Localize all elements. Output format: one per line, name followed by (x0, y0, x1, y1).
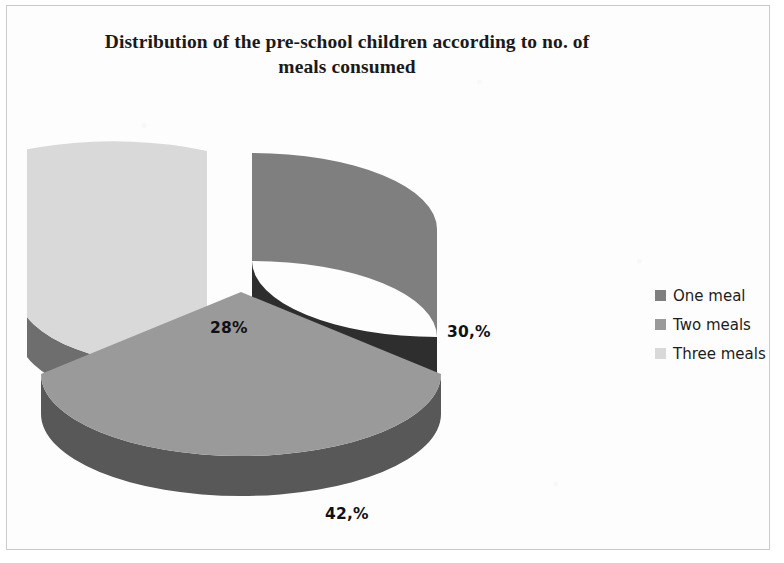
chart-title: Distribution of the pre-school children … (67, 29, 627, 79)
legend-swatch-icon-two-meals (655, 319, 666, 330)
legend-item-three-meals[interactable]: Three meals (655, 340, 775, 367)
chart-title-line-1: Distribution of the pre-school children … (105, 31, 590, 52)
legend-item-two-meals[interactable]: Two meals (655, 311, 775, 338)
data-label-two-meals: 42,% (325, 505, 369, 523)
legend-item-one-meal[interactable]: One meal (655, 282, 775, 309)
pie-plot-area: 30,% 42,% 28% (27, 116, 627, 516)
chart-legend: One meal Two meals Three meals (655, 282, 775, 369)
legend-swatch-icon-one-meal (655, 290, 666, 301)
data-label-one-meal: 30,% (447, 323, 491, 341)
chart-title-line-2: meals consumed (278, 56, 415, 77)
data-label-three-meals: 28% (210, 319, 248, 337)
chart-frame: Distribution of the pre-school children … (6, 5, 770, 550)
legend-label-two-meals: Two meals (673, 316, 751, 334)
legend-label-three-meals: Three meals (673, 345, 766, 363)
legend-label-one-meal: One meal (673, 287, 746, 305)
legend-swatch-icon-three-meals (655, 348, 666, 359)
pie-chart-graphic (27, 116, 627, 516)
